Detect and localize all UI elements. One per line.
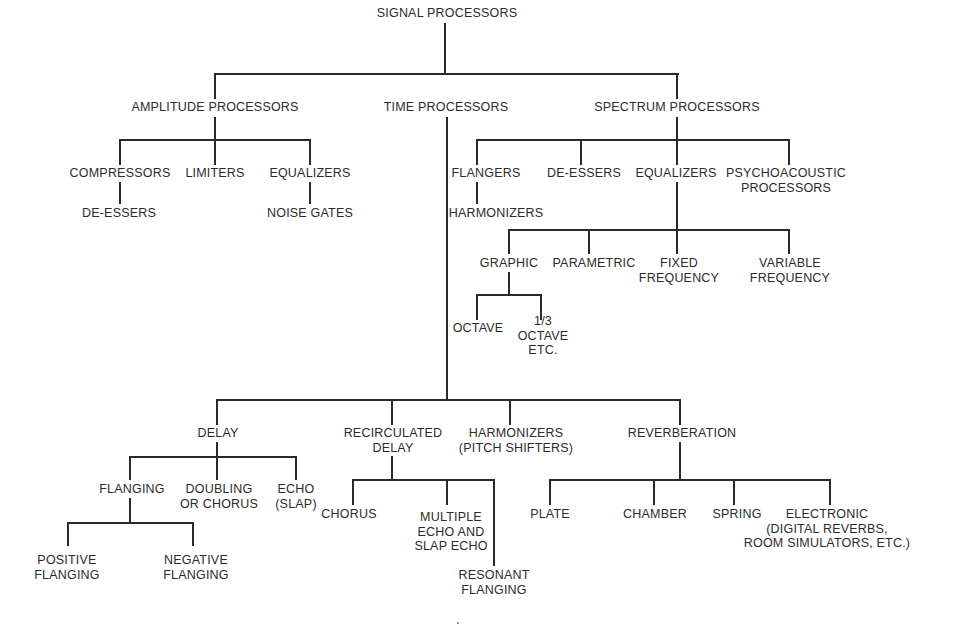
connector-flangers-harmonizers (476, 182, 478, 204)
node-label: EQUALIZERS (635, 166, 716, 181)
connector-spectrum-down (676, 117, 678, 140)
connector-to-chamber (653, 479, 655, 505)
connector-delay-bar (129, 456, 297, 458)
node-label: SPECTRUM PROCESSORS (594, 100, 760, 115)
connector-to-harmonizers-pitch (509, 399, 511, 425)
connector-to-multiple-echo (446, 479, 448, 505)
node-label-line2: OR CHORUS (180, 497, 258, 512)
connector-to-psychoacoustic (788, 139, 790, 165)
node-doubling-or-chorus: DOUBLING OR CHORUS (180, 482, 258, 511)
node-label-line1: POSITIVE (34, 553, 100, 568)
connector-to-negative (192, 522, 194, 546)
connector-to-parametric (588, 229, 590, 254)
node-label-line3: SLAP ECHO (414, 539, 487, 554)
connector-to-spec-equalizers (676, 139, 678, 165)
connector-spectrum-bar (476, 139, 790, 141)
node-label: AMPLITUDE PROCESSORS (131, 100, 298, 115)
connector-root-trunk (444, 23, 446, 74)
node-multiple-echo-slap-echo: MULTIPLE ECHO AND SLAP ECHO (414, 510, 487, 554)
node-label: EQUALIZERS (269, 166, 350, 181)
node-label-line2: FLANGING (34, 568, 100, 583)
node-label-line2: OCTAVE (518, 329, 569, 344)
node-label-line1: MULTIPLE (414, 510, 487, 525)
node-label-line2: FREQUENCY (639, 271, 719, 286)
node-label-line2: PROCESSORS (726, 181, 846, 196)
node-resonant-flanging: RESONANT FLANGING (458, 568, 529, 597)
connector-to-spec-deessers (580, 139, 582, 165)
connector-time-bar (216, 399, 681, 401)
node-label: DE-ESSERS (547, 166, 621, 181)
node-noise-gates: NOISE GATES (267, 206, 353, 221)
node-plate: PLATE (530, 507, 570, 522)
node-label: FLANGING (99, 482, 165, 497)
node-spec-equalizers: EQUALIZERS (635, 166, 716, 181)
connector-graphic-down (508, 272, 510, 296)
node-label-line3: ETC. (518, 343, 569, 358)
connector-to-flanging (129, 456, 131, 480)
node-label-line1: NEGATIVE (163, 553, 229, 568)
node-label: FLANGERS (452, 166, 521, 181)
node-label: OCTAVE (453, 321, 504, 336)
node-label-line1: DOUBLING (180, 482, 258, 497)
node-third-octave: 1/3 OCTAVE ETC. (518, 314, 569, 358)
connector-level1-bar (215, 73, 679, 75)
node-label-line1: 1/3 (518, 314, 569, 329)
node-label-line2: (PITCH SHIFTERS) (459, 441, 573, 456)
node-label-line1: ECHO (275, 482, 317, 497)
node-harmonizers-pitch-shifters: HARMONIZERS (PITCH SHIFTERS) (459, 426, 573, 455)
node-compressors: COMPRESSORS (70, 166, 171, 181)
connector-to-amplitude (214, 73, 216, 99)
node-delay: DELAY (197, 426, 238, 441)
node-fixed-frequency: FIXED FREQUENCY (639, 256, 719, 285)
node-label-line1: FIXED (639, 256, 719, 271)
connector-to-chorus (352, 479, 354, 505)
node-label-line2: FLANGING (163, 568, 229, 583)
connector-to-flangers (476, 139, 478, 165)
connector-recirculated-down (391, 456, 393, 481)
node-recirculated-delay: RECIRCULATED DELAY (344, 426, 443, 455)
node-label-line2: FREQUENCY (750, 271, 830, 286)
node-amplitude-processors: AMPLITUDE PROCESSORS (131, 100, 298, 115)
node-label: HARMONIZERS (449, 206, 544, 221)
node-label-line3: ROOM SIMULATORS, ETC.) (744, 536, 910, 551)
connector-to-echo (295, 456, 297, 480)
node-label-line2: DELAY (344, 441, 443, 456)
node-spec-harmonizers: HARMONIZERS (449, 206, 544, 221)
node-label: DELAY (197, 426, 238, 441)
node-negative-flanging: NEGATIVE FLANGING (163, 553, 229, 582)
node-octave: OCTAVE (453, 321, 504, 336)
node-flangers: FLANGERS (452, 166, 521, 181)
connector-amplitude-down (214, 117, 216, 141)
node-psychoacoustic-processors: PSYCHOACOUSTIC PROCESSORS (726, 166, 846, 195)
connector-reverberation-bar (549, 479, 831, 481)
node-label: CHAMBER (623, 507, 687, 522)
node-amp-equalizers: EQUALIZERS (269, 166, 350, 181)
connector-to-electronic (829, 479, 831, 505)
connector-to-reverberation (679, 399, 681, 425)
signal-processors-tree-diagram: SIGNAL PROCESSORS AMPLITUDE PROCESSORS T… (0, 0, 953, 637)
connector-equalizers-noisegates (309, 182, 311, 204)
node-label: REVERBERATION (628, 426, 737, 441)
connector-to-spring (733, 479, 735, 505)
connector-recirculated-bar (352, 479, 495, 481)
node-label: COMPRESSORS (70, 166, 171, 181)
node-spec-deessers: DE-ESSERS (547, 166, 621, 181)
node-label-line1: ELECTRONIC (744, 507, 910, 522)
node-label: SIGNAL PROCESSORS (377, 6, 517, 21)
scan-speck (457, 622, 459, 624)
node-flanging: FLANGING (99, 482, 165, 497)
connector-to-plate (549, 479, 551, 505)
connector-to-delay (216, 399, 218, 425)
node-label-line2: ECHO AND (414, 525, 487, 540)
node-label: CHORUS (321, 507, 376, 522)
node-amp-deessers: DE-ESSERS (82, 206, 156, 221)
connector-spec-equalizers-down (676, 182, 678, 230)
node-label-line2: (DIGITAL REVERBS, (744, 522, 910, 537)
connector-flanging-down (129, 498, 131, 524)
node-label: PARAMETRIC (552, 256, 635, 271)
node-reverberation: REVERBERATION (628, 426, 737, 441)
connector-to-octave (476, 294, 478, 320)
connector-to-compressors (119, 139, 121, 165)
node-time-processors: TIME PROCESSORS (382, 100, 511, 115)
connector-to-graphic (508, 229, 510, 254)
